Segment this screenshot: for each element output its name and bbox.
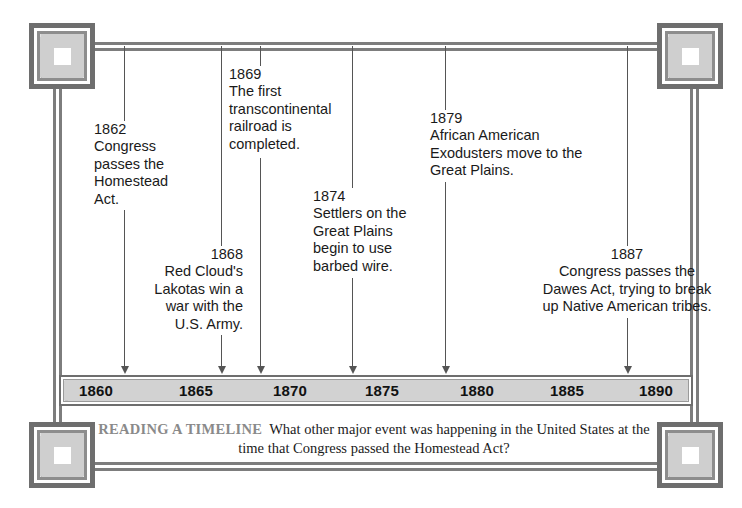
event-stem-lower-1869	[260, 158, 261, 366]
event-text-1887: 1887 Congress passes the Dawes Act, tryi…	[507, 246, 742, 316]
ornament-center-pip	[54, 447, 71, 464]
corner-ornament-top-left	[29, 23, 95, 89]
event-stem-upper-1862	[124, 46, 125, 121]
ornament-inner-frame	[37, 430, 87, 480]
year-tick-1880: 1880	[460, 381, 494, 400]
event-stem-lower-1879	[445, 182, 446, 366]
event-stem-lower-1887	[627, 318, 628, 366]
corner-ornament-top-right	[657, 23, 723, 89]
ornament-inner-frame	[665, 31, 715, 81]
ornament-inner-frame	[37, 31, 87, 81]
year-tick-1860: 1860	[79, 381, 113, 400]
event-arrowhead-1868	[218, 366, 226, 374]
frame-rail-top	[88, 42, 660, 51]
caption-tag: READING A TIMELINE	[98, 421, 262, 437]
caption-question: What other major event was happening in …	[238, 421, 649, 456]
reading-a-timeline-caption: READING A TIMELINE What other major even…	[96, 420, 652, 458]
ornament-center-pip	[54, 48, 71, 65]
event-text-1862: 1862 Congress passes the Homestead Act.	[94, 121, 204, 208]
timeline-figure: 1862 Congress passes the Homestead Act.1…	[0, 0, 742, 508]
event-stem-upper-1869	[260, 46, 261, 66]
event-arrowhead-1874	[349, 366, 357, 374]
year-tick-1890: 1890	[639, 381, 673, 400]
event-stem-lower-1868	[221, 335, 222, 366]
event-stem-lower-1874	[352, 278, 353, 366]
ornament-center-pip	[682, 48, 699, 65]
event-text-1874: 1874 Settlers on the Great Plains begin …	[313, 188, 433, 275]
event-arrowhead-1887	[624, 366, 632, 374]
year-tick-1870: 1870	[273, 381, 307, 400]
year-tick-1875: 1875	[365, 381, 399, 400]
event-arrowhead-1869	[257, 366, 265, 374]
event-stem-upper-1874	[352, 46, 353, 188]
event-text-1869: 1869 The first transcontinental railroad…	[229, 66, 359, 153]
event-stem-upper-1887	[627, 46, 628, 246]
event-arrowhead-1862	[121, 366, 129, 374]
ornament-center-pip	[682, 447, 699, 464]
corner-ornament-bottom-left	[29, 422, 95, 488]
year-tick-1865: 1865	[179, 381, 213, 400]
frame-rail-bottom	[88, 462, 660, 471]
event-stem-upper-1879	[445, 46, 446, 110]
ornament-inner-frame	[665, 430, 715, 480]
event-stem-upper-1868	[221, 46, 222, 246]
event-text-1868: 1868 Red Cloud's Lakotas win a war with …	[133, 246, 243, 333]
corner-ornament-bottom-right	[657, 422, 723, 488]
event-arrowhead-1879	[442, 366, 450, 374]
event-stem-lower-1862	[124, 210, 125, 366]
year-tick-1885: 1885	[550, 381, 584, 400]
event-text-1879: 1879 African American Exodusters move to…	[430, 110, 630, 180]
